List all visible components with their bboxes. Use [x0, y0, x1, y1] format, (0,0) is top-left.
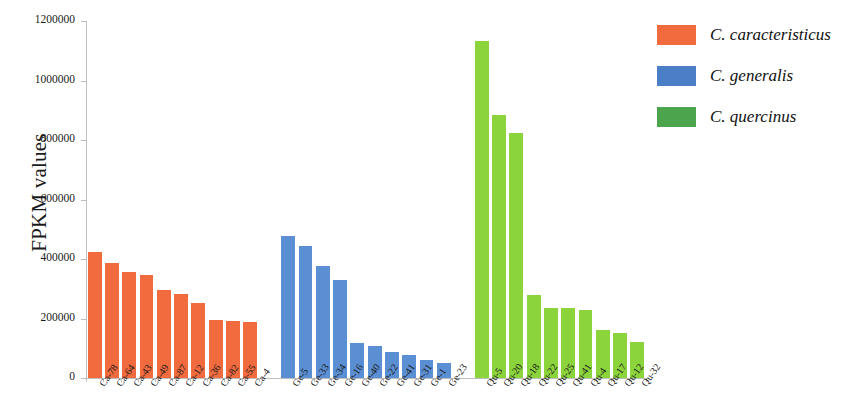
bar [299, 246, 313, 378]
legend-item: C. quercinus [657, 96, 842, 137]
y-axis-tick-label: 1200000 [35, 13, 75, 25]
legend-label: C. generalis [710, 66, 793, 86]
y-axis-tick-label: 200000 [41, 311, 76, 323]
bar [122, 272, 136, 378]
bar [88, 252, 102, 378]
legend-item: C. caracteristicus [657, 14, 842, 55]
y-axis-tick: 200000 [81, 319, 86, 320]
y-axis-tick-label: 0 [69, 370, 75, 382]
legend-swatch [657, 25, 696, 45]
legend-label: C. caracteristicus [710, 25, 831, 45]
y-axis-tick: 800000 [81, 140, 86, 141]
y-axis-tick-label: 600000 [41, 192, 76, 204]
y-axis-tick: 1200000 [81, 21, 86, 22]
y-axis-tick: 400000 [81, 259, 86, 260]
legend-swatch [657, 66, 696, 86]
bar [105, 263, 119, 378]
legend-label: C. quercinus [710, 107, 796, 127]
y-axis-tick-label: 400000 [41, 251, 76, 263]
plot-area: 020000040000060000080000010000001200000 … [86, 21, 646, 378]
legend-swatch [657, 107, 696, 127]
y-axis-tick: 600000 [81, 200, 86, 201]
bar [492, 115, 506, 378]
y-axis-tick: 1000000 [81, 81, 86, 82]
bar [281, 236, 295, 378]
bar [475, 41, 489, 378]
x-axis-tick [86, 378, 87, 382]
legend-item: C. generalis [657, 55, 842, 96]
bar-chart: FPKM values 0200000400000600000800000100… [0, 0, 842, 412]
chart-legend: C. caracteristicusC. generalisC. quercin… [657, 14, 842, 137]
bar [509, 133, 523, 378]
y-axis-tick-label: 1000000 [35, 73, 75, 85]
y-axis-tick-label: 800000 [41, 132, 76, 144]
